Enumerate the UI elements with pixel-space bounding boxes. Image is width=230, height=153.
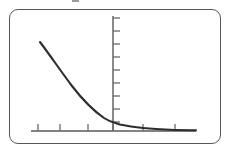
exponential-decay-chart xyxy=(0,0,230,153)
figure-root: Exponential decay curve falling from upp… xyxy=(0,0,230,153)
y-axis-group xyxy=(113,16,120,131)
exponential-decay-curve xyxy=(40,42,196,130)
